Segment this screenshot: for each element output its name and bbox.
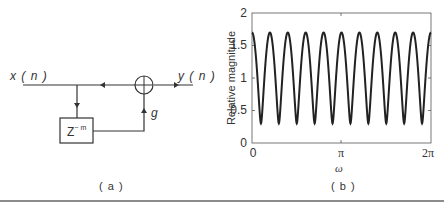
magnitude-chart: Relative magnitude 2 1.5 1 0.5 0 0 π 2π … (225, 6, 434, 192)
figure: Z− m x ( n ) y ( n ) g ( a ) Relative ma… (0, 0, 444, 205)
y-tick-label: 0 (240, 136, 247, 150)
x-tick-label: 2π (422, 146, 434, 160)
feedforward-line (93, 94, 144, 131)
y-tick-label: 1.5 (230, 38, 247, 52)
input-label: x ( n ) (9, 69, 48, 83)
magnitude-curve (252, 33, 431, 124)
gain-label: g (151, 106, 158, 120)
y-tick-label: 0.5 (230, 103, 247, 117)
y-tick-label: 1 (240, 71, 247, 85)
output-label: y ( n ) (177, 69, 216, 83)
x-tick-label: π (338, 146, 344, 160)
x-axis-label: ω (335, 162, 343, 174)
arrow-up-icon (141, 108, 147, 113)
y-tick-label: 2 (240, 6, 247, 20)
caption-b: ( b ) (331, 180, 356, 192)
x-tick-label: 0 (250, 146, 257, 160)
caption-a: ( a ) (99, 180, 124, 192)
block-diagram: Z− m x ( n ) y ( n ) g ( a ) (9, 69, 216, 192)
arrow-down-icon (74, 103, 80, 108)
arrow-right-icon (100, 82, 105, 88)
